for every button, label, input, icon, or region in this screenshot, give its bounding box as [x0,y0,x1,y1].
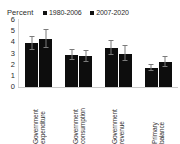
error-bar-cap [109,54,114,55]
category-label-line: Government [72,89,79,144]
category-label: Governmentrevenue [99,89,139,144]
error-bar-cap [109,40,114,41]
error-bar [45,30,46,49]
error-bar-cap [29,49,34,50]
error-bar [111,41,112,54]
error-bar-cap [43,47,48,48]
error-bar-cap [123,60,128,61]
error-bar-cap [163,56,168,57]
error-bar-cap [149,64,154,65]
error-bar-cap [29,36,34,37]
error-bar-cap [69,49,74,50]
error-bar-cap [163,66,168,67]
error-bar [125,46,126,61]
legend-item-2007-2020: 2007-2020 [90,9,129,16]
bar-slot [65,20,78,87]
bar-group [139,20,177,87]
y-tick-label: 2 [11,61,15,69]
category-label-line: balance [158,89,165,144]
y-axis: 6 5 4 3 2 1 0 [0,20,18,87]
error-bar-cap [123,45,128,46]
bar-group [60,20,98,87]
legend-item-1980-2006: 1980-2006 [43,9,82,16]
category-label-line: revenue [118,89,125,144]
bar[interactable] [25,43,38,87]
category-label: Governmentexpenditure [19,89,59,144]
bar-group [99,20,137,87]
x-axis-category-labels: GovernmentexpenditureGovernmentconsumpti… [19,89,178,144]
error-bar-cap [69,59,74,60]
error-bar-cap [83,61,88,62]
y-tick-label: 1 [11,72,15,80]
category-label-line: consumption [79,89,86,144]
bar-chart: Percent 1980-2006 2007-2020 6 5 4 3 2 1 … [0,0,180,144]
category-label: Governmentconsumption [59,89,99,144]
bar-slot [39,20,52,87]
error-bar-cap [149,70,154,71]
y-tick-label: 6 [11,16,15,24]
bar-slot [105,20,118,87]
y-tick-label: 5 [11,27,15,35]
y-tick-label: 4 [11,39,15,47]
bar-slot [145,20,158,87]
legend-label: 1980-2006 [49,9,82,16]
y-tick-label: 3 [11,50,15,58]
category-label-line: Government [32,89,39,144]
chart-legend: Percent 1980-2006 2007-2020 [7,7,137,18]
bar-groups [19,20,178,87]
y-tick-label: 0 [11,83,15,91]
error-bar-cap [43,29,48,30]
plot-area [19,20,178,87]
bar-group [20,20,58,87]
bar-slot [119,20,132,87]
bar-slot [79,20,92,87]
error-bar-cap [83,50,88,51]
legend-swatch-icon [43,11,47,15]
category-label-line: expenditure [39,89,46,144]
bar-slot [25,20,38,87]
category-label: Primarybalance [138,89,178,144]
legend-swatch-icon [90,11,94,15]
bar-slot [159,20,172,87]
legend-label: 2007-2020 [96,9,129,16]
